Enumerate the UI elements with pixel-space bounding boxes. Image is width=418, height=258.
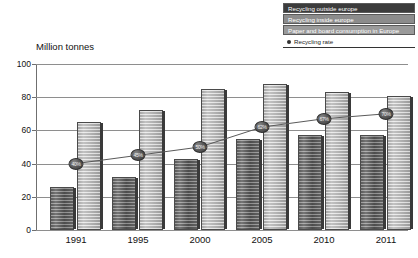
recycling-rate-line [36,64,408,230]
recycling-chart: Recycling outside europe Recycling insid… [0,0,418,258]
x-axis-label: 2010 [298,234,350,245]
y-axis-tick-label: 0 [26,225,31,235]
y-axis-tickmark [32,230,36,231]
x-axis-label: 1991 [50,234,102,245]
legend-item-recycling-inside-europe: Recycling inside europe [283,14,415,24]
y-axis-title: Million tonnes [36,41,94,52]
rate-marker: 70% [379,108,394,120]
y-axis-tick-label: 100 [17,59,31,69]
rate-polyline [76,114,386,164]
rate-marker: 62% [255,121,270,133]
legend-item-recycling-outside-europe: Recycling outside europe [283,3,415,13]
y-axis-tick-label: 80 [22,92,31,102]
y-axis-tick-label: 20 [22,192,31,202]
legend-label-recycling-outside-europe: Recycling outside europe [288,5,357,12]
chart-legend: Recycling outside europe Recycling insid… [283,3,415,48]
bar-shadow [410,97,413,229]
rate-marker: 40% [69,158,84,170]
rate-marker: 45% [131,149,146,161]
y-axis-tick-label: 40 [22,159,31,169]
circle-marker-icon [287,40,291,44]
rate-marker: 50% [193,141,208,153]
legend-label-recycling-rate: Recycling rate [294,38,333,45]
legend-item-paper-board-consumption: Paper and board consumption in Europe [283,25,415,35]
rate-marker: 67% [317,113,332,125]
legend-item-recycling-rate: Recycling rate [283,36,415,48]
x-axis-label: 2000 [174,234,226,245]
x-axis-label: 2005 [236,234,288,245]
y-axis-tick-label: 60 [22,125,31,135]
gridline [36,230,408,231]
legend-label-recycling-inside-europe: Recycling inside europe [288,16,354,23]
x-axis-label: 2011 [360,234,412,245]
legend-label-paper-board-consumption: Paper and board consumption in Europe [288,27,399,34]
x-axis-label: 1995 [112,234,164,245]
plot-area: 020406080100 40%45%50%62%67%70% 19911995… [36,64,408,230]
